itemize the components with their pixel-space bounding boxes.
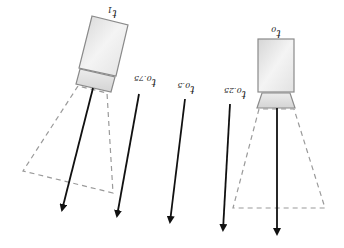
- label-t025: t0.25: [224, 86, 246, 101]
- label-t075: t0.75: [134, 74, 156, 89]
- camera-body-t1: [79, 16, 128, 76]
- camera-lens-t0: [257, 93, 295, 108]
- camera-interpolation-diagram: t1 t0.75 t0.5 t0.25: [0, 0, 344, 248]
- frustum-t0: [233, 109, 325, 208]
- direction-t075: t0.75: [117, 74, 156, 216]
- label-t05: t0.5: [177, 81, 194, 96]
- label-t0: t0: [271, 25, 281, 40]
- frustum-t1: [23, 86, 113, 193]
- view-direction-arrow-t05: [170, 99, 185, 222]
- view-direction-arrow-t075: [117, 94, 139, 216]
- view-direction-arrow-t025: [223, 104, 230, 230]
- camera-t1: t1: [23, 5, 128, 210]
- direction-t05: t0.5: [170, 81, 195, 222]
- label-t1: t1: [107, 5, 117, 20]
- camera-t0: t0: [233, 25, 325, 234]
- camera-body-t0: [258, 39, 294, 92]
- view-direction-arrow-t1: [62, 88, 93, 210]
